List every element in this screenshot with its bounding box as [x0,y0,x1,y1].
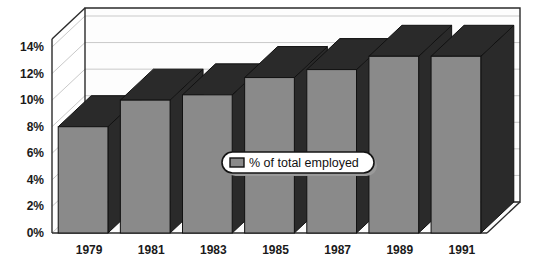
bar [431,25,514,233]
legend-swatch [230,158,244,167]
y-axis-labels: 0%2%4%6%8%10%12%14% [20,40,44,240]
bar-front-face [431,56,481,233]
bar-front-face [58,127,108,233]
y-axis-tick-label: 12% [20,67,44,81]
x-axis-tick-label: 1987 [324,243,351,257]
y-axis-tick-label: 4% [27,173,45,187]
y-axis-tick-label: 0% [27,226,45,240]
bar-side-face [481,25,514,233]
gridline-depth [52,43,85,74]
x-axis-labels: 1979198119831985198719891991 [76,243,476,257]
bar-chart-figure: 0%2%4%6%8%10%12%14% 19791981198319851987… [0,0,535,262]
bar-front-face [369,56,419,233]
y-axis-tick-label: 14% [20,40,44,54]
legend-label: % of total employed [249,156,359,170]
gridline-depth [52,69,85,100]
x-axis-tick-label: 1981 [138,243,165,257]
x-axis-tick-label: 1991 [449,243,476,257]
chart-legend[interactable]: % of total employed [222,152,377,176]
x-axis-tick-label: 1983 [200,243,227,257]
x-axis-tick-label: 1985 [262,243,289,257]
y-axis-tick-label: 6% [27,146,45,160]
y-axis-tick-label: 2% [27,199,45,213]
chart-canvas: 0%2%4%6%8%10%12%14% 19791981198319851987… [0,0,535,262]
y-axis-tick-label: 8% [27,120,45,134]
frame-edge [52,8,85,39]
x-axis-tick-label: 1979 [76,243,103,257]
x-axis-tick-label: 1989 [386,243,413,257]
gridline-depth [52,16,85,47]
bar-front-face [120,100,170,233]
y-axis-tick-label: 10% [20,93,44,107]
